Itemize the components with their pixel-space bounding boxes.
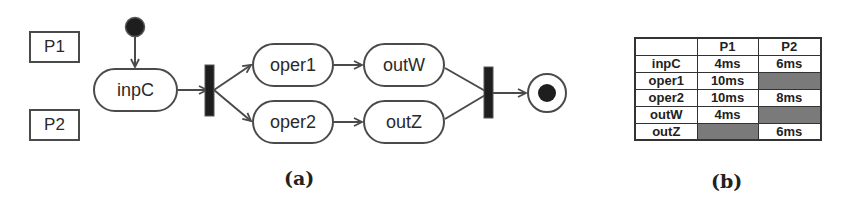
fork-bar: [205, 65, 214, 116]
table-row: outW 4ms: [635, 106, 821, 123]
final-node: [528, 74, 566, 112]
table-time-cell: 4ms: [697, 55, 758, 72]
table-unavailable-cell: [758, 72, 821, 89]
activity-oper2: oper2: [252, 100, 334, 144]
activity-outW: outW: [363, 43, 445, 87]
caption-b: (b): [711, 170, 742, 192]
activity-oper1-label: oper1: [270, 55, 316, 76]
table-header-corner: [635, 38, 697, 55]
processor-p2: P2: [29, 109, 80, 141]
activity-outZ: outZ: [363, 100, 445, 144]
table-unavailable-cell: [758, 106, 821, 123]
table-time-cell: 10ms: [697, 72, 758, 89]
table-task-cell: oper2: [635, 89, 697, 106]
processor-p1: P1: [29, 31, 80, 63]
table-row: outZ 6ms: [635, 123, 821, 140]
table-task-cell: oper1: [635, 72, 697, 89]
activity-outZ-label: outZ: [386, 112, 422, 133]
initial-node: [126, 18, 145, 37]
join-bar: [484, 67, 493, 118]
execution-time-table: P1 P2 inpC 4ms 6ms oper1 10ms oper2 10ms…: [634, 37, 822, 141]
caption-a: (a): [284, 167, 314, 189]
table-time-cell: 6ms: [758, 123, 821, 140]
activity-outW-label: outW: [383, 55, 425, 76]
table-header-p1: P1: [697, 38, 758, 55]
table-row: oper2 10ms 8ms: [635, 89, 821, 106]
table-task-cell: outW: [635, 106, 697, 123]
activity-inpC-label: inpC: [117, 80, 154, 101]
table-row: inpC 4ms 6ms: [635, 55, 821, 72]
processor-p2-label: P2: [44, 115, 65, 135]
table-time-cell: 10ms: [697, 89, 758, 106]
table-time-cell: 6ms: [758, 55, 821, 72]
table-unavailable-cell: [697, 123, 758, 140]
table-task-cell: inpC: [635, 55, 697, 72]
activity-inpC: inpC: [93, 68, 178, 112]
table-time-cell: 8ms: [758, 89, 821, 106]
processor-p1-label: P1: [44, 37, 65, 57]
table-header-row: P1 P2: [635, 38, 821, 55]
activity-oper1: oper1: [252, 43, 334, 87]
activity-oper2-label: oper2: [270, 112, 316, 133]
table-header-p2: P2: [758, 38, 821, 55]
table-task-cell: outZ: [635, 123, 697, 140]
table-time-cell: 4ms: [697, 106, 758, 123]
table-row: oper1 10ms: [635, 72, 821, 89]
